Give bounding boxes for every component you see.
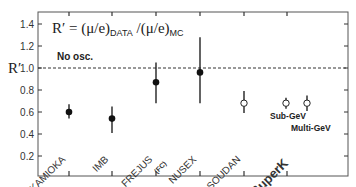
y-tick-label: 1.2: [20, 41, 34, 52]
formula-sub-data: DATA: [110, 28, 133, 38]
y-axis: 0.20.40.60.81.01.21.4: [20, 19, 348, 162]
formula-lhs: R′ = (μ/e): [52, 20, 110, 37]
y-tick-label: 0.8: [20, 85, 34, 96]
x-category-label-nusex: NUSEX: [166, 153, 198, 185]
data-point-kamioka: [66, 104, 73, 118]
data-point-multi-gev: [304, 96, 310, 111]
data-point-soudan: [241, 91, 247, 113]
x-category-label-soudan: SOUDAN: [204, 154, 242, 187]
annotation-sub-gev: Sub-GeV: [270, 111, 306, 121]
annotations: Sub-GeVMulti-GeV: [270, 111, 331, 133]
y-tick-label: 0.4: [20, 129, 34, 140]
x-category-label-frejus: FREJUS: [119, 153, 155, 187]
chart: 0.20.40.60.81.01.21.4 KAMIOKAIMBFREJUS(F…: [0, 0, 356, 187]
no-osc-label: No osc.: [57, 51, 93, 62]
x-axis: KAMIOKAIMBFREJUS(FC)NUSEXSOUDANSuperK: [27, 12, 291, 187]
y-tick-label: 1.0: [20, 63, 34, 74]
formula-mid: /(μ/e): [133, 20, 170, 37]
y-tick-label: 0.2: [20, 151, 34, 162]
x-category-label-superk: SuperK: [248, 155, 292, 187]
plot-frame: [38, 12, 348, 176]
data-point-sub-gev: [283, 98, 289, 109]
data-point-imb: [109, 107, 116, 133]
formula-sub-mc: MC: [170, 28, 184, 38]
data-point-nusex: [197, 37, 204, 103]
data-point-frejus: [153, 63, 160, 104]
y-axis-label: R′: [8, 60, 21, 76]
y-tick-label: 0.6: [20, 107, 34, 118]
y-tick-label: 1.4: [20, 19, 34, 30]
annotation-multi-gev: Multi-GeV: [291, 123, 331, 133]
x-category-sublabel: (FC): [153, 160, 169, 176]
x-category-label-imb: IMB: [90, 153, 111, 174]
formula-annotation: R′ = (μ/e)DATA /(μ/e)MC: [52, 20, 184, 38]
